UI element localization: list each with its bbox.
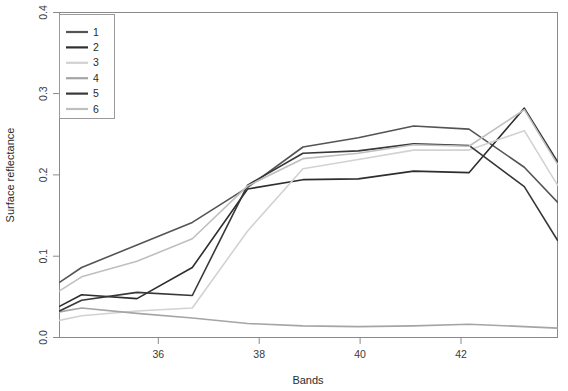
line-chart: 0.0 0.1 0.2 0.3 0.4 36 38 40 42 Bands Su… [0, 0, 568, 391]
y-tick-label: 0.0 [37, 330, 49, 345]
legend-frame [60, 15, 115, 119]
x-tick-label: 36 [152, 348, 164, 360]
legend-label-4: 4 [93, 72, 99, 84]
y-tick-label: 0.1 [37, 249, 49, 264]
chart-container: 0.0 0.1 0.2 0.3 0.4 36 38 40 42 Bands Su… [0, 0, 568, 391]
legend-label-1: 1 [93, 26, 99, 38]
legend-label-6: 6 [93, 103, 99, 115]
x-axis-title: Bands [292, 374, 324, 386]
legend-label-5: 5 [93, 87, 99, 99]
legend-label-3: 3 [93, 56, 99, 68]
x-tick-label: 42 [455, 348, 467, 360]
y-axis-title: Surface reflectance [4, 128, 16, 223]
x-tick-label: 38 [253, 348, 265, 360]
chart-legend: 123456 [60, 15, 115, 119]
y-tick-label: 0.3 [37, 86, 49, 101]
y-tick-label: 0.2 [37, 167, 49, 182]
legend-label-2: 2 [93, 41, 99, 53]
x-tick-label: 40 [354, 348, 366, 360]
y-tick-label: 0.4 [37, 5, 49, 20]
